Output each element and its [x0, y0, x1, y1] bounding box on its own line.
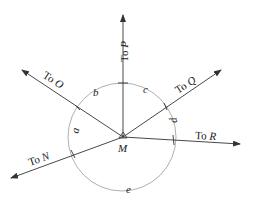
svg-text:To R: To R — [195, 129, 217, 142]
label-to-q: To Q — [173, 74, 198, 96]
direction-angle-diagram: M To P To O To Q To R To N a b c d e — [0, 0, 254, 200]
ray-to-q — [123, 70, 221, 137]
label-to-p: To P — [118, 41, 130, 62]
label-to-o: To O — [41, 69, 66, 91]
arc-label-a: a — [68, 126, 81, 135]
center-label: M — [117, 142, 128, 154]
label-to-n: To N — [27, 149, 52, 168]
label-to-r: To R — [195, 129, 217, 142]
arc-label-d: d — [166, 116, 179, 124]
arc-label-c: c — [143, 83, 148, 95]
arc-label-e: e — [126, 183, 131, 195]
svg-text:To O: To O — [41, 69, 66, 91]
svg-text:To P: To P — [118, 41, 130, 62]
ray-to-r — [123, 137, 240, 144]
arc-label-b: b — [93, 86, 99, 98]
svg-text:To Q: To Q — [173, 74, 198, 96]
svg-text:To N: To N — [27, 149, 52, 168]
